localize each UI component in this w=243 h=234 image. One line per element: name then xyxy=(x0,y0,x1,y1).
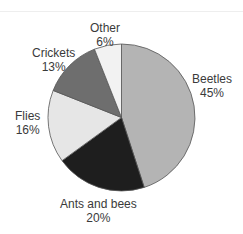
label-beetles: Beetles 45% xyxy=(192,72,232,100)
label-other-pct: 6% xyxy=(90,35,120,49)
label-other-name: Other xyxy=(90,21,120,35)
label-other: Other 6% xyxy=(90,21,120,49)
label-crickets-name: Crickets xyxy=(32,46,75,60)
label-ants-and-bees-pct: 20% xyxy=(60,211,137,225)
label-flies-pct: 16% xyxy=(15,123,40,137)
label-ants-and-bees-name: Ants and bees xyxy=(60,197,137,211)
label-flies: Flies 16% xyxy=(15,109,40,137)
label-flies-name: Flies xyxy=(15,109,40,123)
label-beetles-name: Beetles xyxy=(192,72,232,86)
label-ants-and-bees: Ants and bees 20% xyxy=(60,197,137,225)
label-crickets-pct: 13% xyxy=(32,60,75,74)
label-crickets: Crickets 13% xyxy=(32,46,75,74)
label-beetles-pct: 45% xyxy=(192,86,232,100)
